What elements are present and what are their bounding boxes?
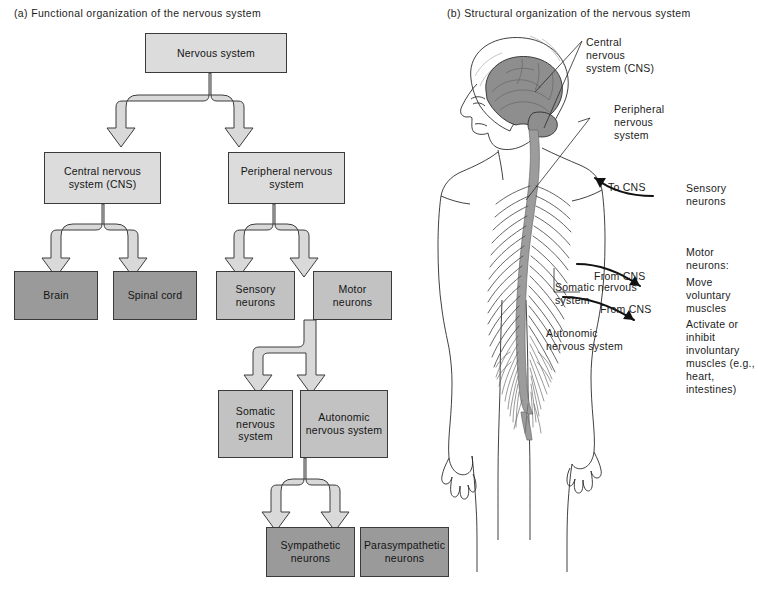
flow-node-autonomic-nervous-system[interactable]: Autonomic nervous system <box>300 390 388 458</box>
flow-node-label: Brain <box>39 289 73 302</box>
label-peripheral-nervous-system: Peripheral nervous system <box>614 103 686 142</box>
label-central-nervous-system: Central nervous system (CNS) <box>586 36 656 75</box>
connector-motor-fork <box>244 320 325 394</box>
label-move-voluntary-muscles: Move voluntary muscles <box>686 276 758 315</box>
flow-node-sensory-neurons[interactable]: Sensory neurons <box>216 271 295 320</box>
functional-organization-panel: (a) Functional organization of the nervo… <box>0 0 440 590</box>
flow-node-label: Sensory neurons <box>217 283 294 308</box>
flow-node-brain[interactable]: Brain <box>14 271 98 320</box>
label-autonomic-nervous-system: Autonomic nervous system <box>546 327 632 353</box>
label-to-cns: To CNS <box>608 181 646 194</box>
flow-node-label: Central nervous system (CNS) <box>45 165 160 190</box>
flow-node-label: Autonomic nervous system <box>301 411 387 436</box>
label-sensory-neurons: Sensory neurons <box>686 182 758 208</box>
flow-node-spinal-cord[interactable]: Spinal cord <box>113 271 197 320</box>
flow-node-somatic-nervous-system[interactable]: Somatic nervous system <box>218 390 293 458</box>
label-from-cns-autonomic: From CNS <box>600 303 652 316</box>
connector-pns-fork <box>225 204 318 277</box>
flow-node-cns[interactable]: Central nervous system (CNS) <box>44 152 161 204</box>
connector-autonomic-fork <box>262 458 349 531</box>
flow-node-label: Peripheral nervous system <box>229 165 344 190</box>
flow-node-label: Motor neurons <box>314 283 391 308</box>
flow-node-label: Spinal cord <box>124 289 187 302</box>
flow-node-label: Somatic nervous system <box>219 405 292 443</box>
flow-node-label: Sympathetic neurons <box>267 539 354 564</box>
label-activate-inhibit: Activate or inhibit involuntary muscles … <box>686 318 758 396</box>
flow-node-pns[interactable]: Peripheral nervous system <box>228 152 345 204</box>
flow-node-nervous-system[interactable]: Nervous system <box>145 33 287 73</box>
flow-node-motor-neurons[interactable]: Motor neurons <box>313 271 392 320</box>
label-motor-neurons: Motor neurons: <box>686 246 758 272</box>
flow-node-label: Nervous system <box>173 47 259 60</box>
brain <box>486 56 563 137</box>
connector-cns-fork <box>42 204 147 277</box>
flow-node-sympathetic-neurons[interactable]: Sympathetic neurons <box>266 527 355 577</box>
connector-ns-fork <box>107 73 253 147</box>
structural-organization-panel: (b) Structural organization of the nervo… <box>430 0 746 590</box>
